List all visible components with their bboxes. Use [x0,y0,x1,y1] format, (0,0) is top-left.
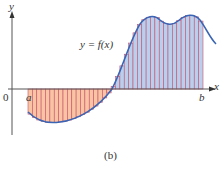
riemann-rectangle [151,17,155,89]
interval-start-label: a [26,91,32,103]
riemann-rectangle [164,24,168,89]
riemann-rectangle [142,20,146,89]
y-axis-label: y [9,0,14,12]
riemann-rectangle [89,89,93,109]
riemann-rectangle [76,89,80,117]
riemann-rectangle [199,21,203,89]
riemann-rectangle [94,89,98,106]
riemann-rectangle [81,89,85,115]
interval-end-label: b [199,91,205,103]
x-axis-label: x [214,80,219,92]
riemann-rectangle [85,89,89,112]
riemann-rectangle [54,89,58,122]
riemann-rectangle [46,89,50,122]
riemann-rectangle [72,89,76,119]
riemann-rectangle [32,89,36,117]
y-axis-arrow-icon [10,11,15,18]
riemann-rectangle [63,89,67,121]
riemann-rectangle [133,33,137,89]
origin-label: 0 [3,91,9,103]
riemann-rectangle [59,89,63,122]
riemann-rectangle [177,20,181,89]
curve-label: y = f(x) [80,38,113,50]
riemann-rectangle [137,25,141,89]
riemann-rectangles [28,15,203,122]
riemann-rectangle [190,15,194,89]
riemann-sum-diagram [0,0,220,169]
riemann-rectangle [155,18,159,89]
riemann-rectangle [50,89,54,123]
riemann-rectangle [129,43,133,89]
figure-caption: (b) [104,149,117,161]
riemann-rectangle [67,89,71,120]
riemann-rectangle [159,21,163,89]
riemann-rectangle [186,16,190,89]
riemann-rectangle [37,89,41,120]
riemann-rectangle [194,17,198,89]
riemann-rectangle [41,89,45,122]
riemann-rectangle [168,24,172,89]
riemann-rectangle [146,17,150,89]
riemann-rectangle [181,17,185,89]
riemann-rectangle [172,23,176,89]
